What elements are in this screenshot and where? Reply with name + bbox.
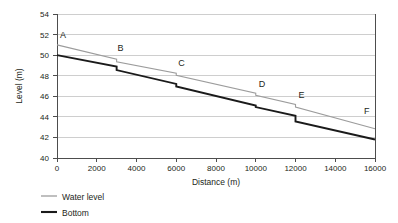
- xtick-label-4000: 4000: [128, 164, 146, 173]
- legend-label-water-level: Water level: [62, 192, 104, 202]
- chart-container: 54 52 50 48 46 44 42 40 0 2000 4000 6000…: [0, 0, 398, 223]
- xtick-label-12000: 12000: [284, 164, 307, 173]
- point-label-f: F: [364, 106, 370, 116]
- legend-label-bottom: Bottom: [62, 208, 89, 218]
- point-label-d: D: [259, 79, 266, 89]
- axes: [57, 14, 375, 158]
- legend: Water level Bottom: [41, 192, 104, 218]
- series-line-water-level: [57, 45, 375, 129]
- point-label-c: C: [178, 58, 185, 68]
- ytick-label-42: 42: [40, 133, 49, 142]
- y-axis-tick-labels: 54 52 50 48 46 44 42 40: [40, 10, 49, 163]
- xtick-label-16000: 16000: [364, 164, 387, 173]
- y-axis-title: Level (m): [14, 68, 24, 104]
- ytick-label-44: 44: [40, 113, 49, 122]
- y-axis-tickmarks: [53, 14, 57, 158]
- ytick-label-40: 40: [40, 154, 49, 163]
- point-label-e: E: [298, 90, 304, 100]
- point-label-a: A: [60, 30, 66, 40]
- point-labels: ABCDEF: [60, 30, 370, 117]
- ytick-label-52: 52: [40, 31, 49, 40]
- xtick-label-8000: 8000: [207, 164, 225, 173]
- xtick-label-10000: 10000: [245, 164, 268, 173]
- ytick-label-46: 46: [40, 92, 49, 101]
- gridlines: [57, 14, 375, 137]
- ytick-label-50: 50: [40, 51, 49, 60]
- level-vs-distance-chart: 54 52 50 48 46 44 42 40 0 2000 4000 6000…: [0, 0, 398, 223]
- x-axis-title: Distance (m): [192, 177, 240, 187]
- point-label-b: B: [118, 43, 124, 53]
- xtick-label-0: 0: [55, 164, 60, 173]
- series-line-bottom: [57, 55, 375, 139]
- ytick-label-48: 48: [40, 72, 49, 81]
- ytick-label-54: 54: [40, 10, 49, 19]
- xtick-label-2000: 2000: [88, 164, 106, 173]
- series-group: [57, 45, 375, 140]
- x-axis-tickmarks: [57, 158, 375, 162]
- x-axis-tick-labels: 0 2000 4000 6000 8000 10000 12000 14000 …: [55, 164, 387, 173]
- xtick-label-6000: 6000: [167, 164, 185, 173]
- xtick-label-14000: 14000: [324, 164, 347, 173]
